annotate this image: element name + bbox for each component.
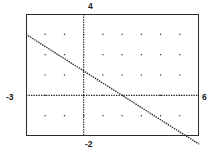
x-max-label: 6: [202, 93, 207, 102]
x-min-label: -3: [6, 93, 13, 102]
y-max-label: 4: [88, 2, 93, 11]
y-min-label: -2: [85, 140, 92, 149]
plot-frame: [26, 14, 199, 136]
plot-viewport: 4 -3 6 -2: [0, 0, 215, 156]
